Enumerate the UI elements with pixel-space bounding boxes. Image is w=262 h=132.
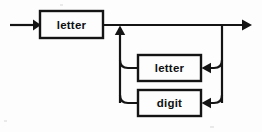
main-line	[103, 20, 252, 31]
node-loop-letter-label: letter	[155, 62, 185, 74]
node-first-letter: letter	[40, 11, 103, 38]
entry-arrow	[10, 20, 41, 31]
syntax-diagram-canvas: letter	[0, 0, 262, 132]
syntax-diagram: letter	[0, 0, 262, 132]
node-first-letter-label: letter	[57, 19, 87, 31]
loop-feed-rail-right	[202, 25, 223, 108]
node-loop-digit-label: digit	[157, 97, 182, 109]
node-loop-letter: letter	[138, 55, 201, 81]
node-loop-digit: digit	[138, 90, 201, 116]
loop-return-rail-left	[115, 26, 138, 104]
